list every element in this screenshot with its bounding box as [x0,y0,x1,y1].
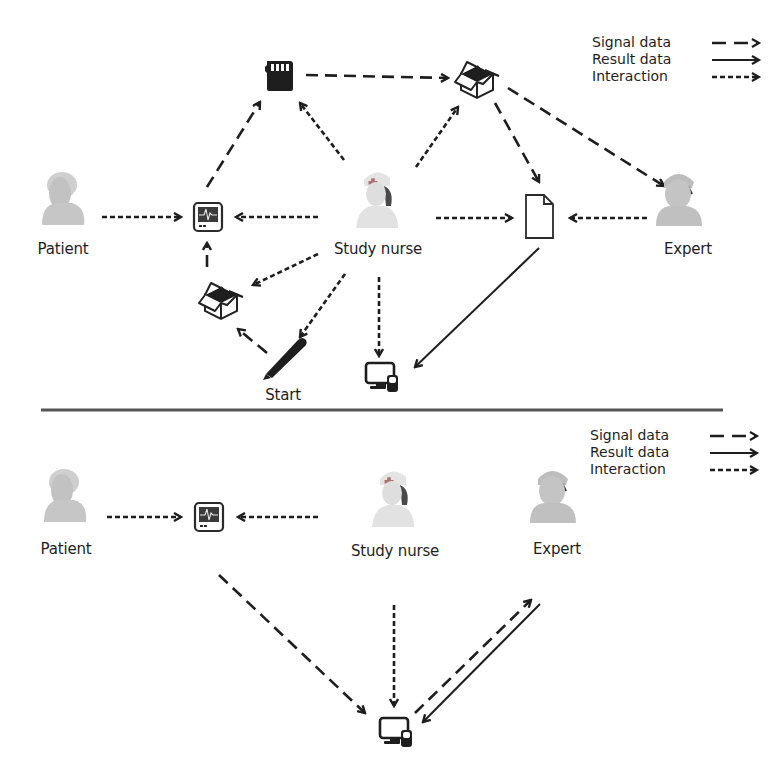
legend-result-label-bottom: Result data [590,444,708,461]
patient-avatar-icon-bottom [44,469,86,522]
arrow-expert-to-computer-bottom [423,604,540,722]
label-start: Start [265,386,301,404]
arrow-nurse-to-box2 [253,254,318,285]
arrow-nurse-to-box [416,107,458,167]
long-dash-arrow-icon [710,37,762,49]
workflow-diagram [0,0,778,782]
label-expert: Expert [664,240,712,258]
legend-result-label: Result data [592,51,710,68]
label-study-nurse-bottom: Study nurse [351,542,439,560]
bottom-arrows [107,517,540,722]
arrow-monitor-to-card [207,102,260,187]
arrow-box-to-expert [508,88,664,186]
arrow-monitor-to-computer-bottom [219,575,365,713]
legend-result: Result data [592,51,762,68]
arrow-box-to-document [495,103,539,182]
legend-signal-label-bottom: Signal data [590,427,708,444]
label-study-nurse: Study nurse [334,240,422,258]
arrow-pen-to-box [238,329,267,353]
legend-result-bottom: Result data [590,444,760,461]
computer-phone-icon-bottom[interactable] [380,718,412,747]
label-expert-bottom: Expert [533,540,581,558]
top-panel [41,61,723,410]
legend-interaction-label: Interaction [592,68,710,85]
open-box-icon-left[interactable] [199,283,243,319]
study-nurse-avatar-icon [356,172,398,228]
short-dash-arrow-icon [710,71,762,83]
legend-interaction: Interaction [592,68,762,85]
short-dash-arrow-icon [708,464,760,476]
legend-bottom: Signal data Result data Interaction [590,427,760,478]
arrow-card-to-box [306,75,448,78]
memory-card-icon[interactable] [265,61,293,91]
arrow-document-to-computer [415,248,539,367]
computer-phone-icon[interactable] [366,363,398,392]
arrow-nurse-to-pen [300,274,345,337]
bottom-panel [44,469,576,747]
legend-signal: Signal data [592,34,762,51]
long-dash-arrow-icon [708,430,760,442]
label-patient-bottom: Patient [41,540,92,558]
legend-signal-label: Signal data [592,34,710,51]
ecg-monitor-icon[interactable] [194,203,222,231]
ecg-monitor-icon-bottom[interactable] [195,503,223,531]
legend-interaction-label-bottom: Interaction [590,461,708,478]
study-nurse-avatar-icon-bottom [372,471,414,527]
open-box-icon-top[interactable] [455,62,499,98]
arrow-computer-to-expert-bottom [415,600,531,713]
document-icon[interactable] [526,195,553,238]
pen-icon[interactable] [263,338,307,380]
label-patient: Patient [38,240,89,258]
solid-arrow-icon [708,447,760,459]
solid-arrow-icon [710,54,762,66]
legend-top: Signal data Result data Interaction [592,34,762,85]
arrow-nurse-to-card [300,103,344,160]
expert-avatar-icon [656,174,702,226]
legend-signal-bottom: Signal data [590,427,760,444]
patient-avatar-icon [42,172,84,225]
legend-interaction-bottom: Interaction [590,461,760,478]
expert-avatar-icon-bottom [530,471,576,523]
